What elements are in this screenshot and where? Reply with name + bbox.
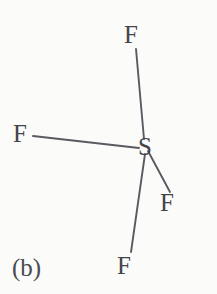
atom-label-f-bottom: F — [117, 253, 131, 278]
panel-label: (b) — [12, 255, 41, 280]
atom-label-f-top: F — [124, 22, 138, 47]
bond-canvas — [0, 0, 217, 294]
bond-s-f-left — [33, 136, 139, 148]
atom-label-s: S — [138, 134, 152, 159]
bond-s-f-bottom — [131, 154, 145, 252]
molecular-structure-figure: S F F F F (b) — [0, 0, 217, 294]
bond-s-f-top — [136, 49, 144, 139]
atom-label-f-lower-right: F — [160, 190, 174, 215]
atom-label-f-left: F — [13, 121, 27, 146]
